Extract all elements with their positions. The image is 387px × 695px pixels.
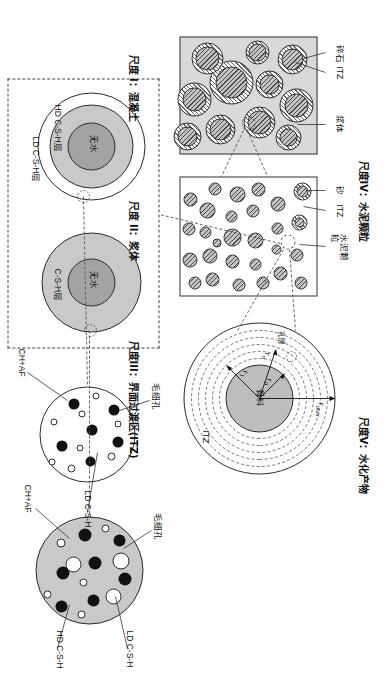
- scale5-capillary-pore: [101, 524, 109, 532]
- scale2-particle-core: [294, 217, 304, 227]
- scale5-capillary-pore: [77, 610, 85, 618]
- scale1-zoom-marker: [241, 116, 255, 130]
- scale5-ch-af-pore: [56, 440, 67, 451]
- scale5-ch-af-pore: [108, 404, 119, 415]
- scale5-label-ch-af: CH+AF: [15, 348, 25, 376]
- scale1-label-aggregate: 碎石: [333, 44, 343, 62]
- scale2-particle: [229, 186, 245, 202]
- scale5-capillary-pore: [92, 392, 99, 399]
- scale5-title: 尺度V：水化产物: [356, 416, 371, 494]
- scale4-label-anhydrous: 无水: [87, 134, 97, 152]
- scale2-particle: [205, 272, 219, 286]
- scale5-label-capillary-pore: 毛细孔: [149, 382, 159, 409]
- r0-subscript: 0: [262, 381, 269, 384]
- scale2-particle: [208, 182, 221, 195]
- scale5-label-ch-af: CH+AF: [21, 484, 31, 512]
- scale3-radius-r0: r0: [262, 378, 273, 385]
- scale5-capillary-pore: [76, 444, 83, 451]
- scale2-particle: [271, 244, 281, 254]
- scale2-particle: [246, 204, 259, 217]
- scale3-label-pore: 孔隙: [276, 330, 283, 344]
- scale2-label-itz: ITZ: [333, 204, 343, 217]
- scale2-particle: [290, 248, 303, 261]
- scale3-radius-rn: rn: [260, 352, 271, 359]
- scale2-particle: [212, 238, 221, 247]
- scale4-label-hd-csh-layer: HD C-S-H层: [51, 104, 61, 151]
- scale4-label-anhydrous: 无水: [87, 270, 97, 288]
- scale4-label-csh-layer: C-S-H层: [51, 268, 61, 301]
- scale2-particle: [199, 202, 215, 218]
- scale5-ch-af-pore: [112, 436, 123, 447]
- scale2-particle: [225, 254, 239, 268]
- scale3-radius-r1: r1: [238, 370, 249, 377]
- scale5-label-hd-csh: HD C-S-H: [53, 630, 63, 668]
- scale1-aggregate: [177, 126, 197, 146]
- scale1-aggregate: [209, 118, 231, 140]
- scale5-capillary-pore: [114, 420, 121, 427]
- scale5-capillary-pore: [78, 410, 85, 417]
- scale5-ch-af-pore: [85, 456, 95, 466]
- scale2-label-cement-particle: 水泥颗粒: [329, 233, 347, 267]
- scale2-label-sand: 砂: [333, 185, 343, 194]
- scale3-label-aggregate-core: 骨料: [253, 388, 263, 406]
- scale5-capillary-pore: [65, 556, 81, 572]
- scale2-particle: [182, 222, 195, 235]
- scale2-particle: [271, 222, 283, 234]
- scale4-title: 尺度IV：水泥颗粒: [356, 160, 371, 241]
- scale5-capillary-pore: [112, 552, 129, 569]
- scale5-capillary-pore: [43, 590, 51, 598]
- rmax-subscript: max: [314, 405, 321, 416]
- scale3-label-itz-outer: ITZ: [199, 430, 209, 443]
- scale1-aggregate: [195, 46, 219, 70]
- scale5-ch-af-pore: [87, 594, 99, 606]
- rn-subscript: n: [260, 355, 267, 358]
- scale2-particle: [249, 258, 261, 270]
- scale5-ch-af-pore: [86, 424, 97, 435]
- scale5-label-ld-csh: LD C-S-H: [123, 630, 133, 667]
- scale5-capillary-pore: [56, 538, 65, 547]
- scale2-particle: [183, 192, 197, 206]
- scale5-capillary-pore: [79, 578, 87, 586]
- scale5-label-ld-csh: LD C-S-H: [81, 490, 91, 527]
- scale2-particle: [202, 248, 217, 263]
- scale5-capillary-pore: [48, 458, 55, 465]
- r1-subscript: 1: [238, 373, 245, 376]
- scale3-radius-rmax: rmax: [314, 402, 325, 416]
- scale2-particle: [188, 276, 201, 289]
- scale2-particle: [294, 276, 307, 289]
- scale2-particle-core: [296, 185, 308, 197]
- scale2-particle: [225, 210, 237, 222]
- scale2-title: 尺度 II：浆体: [126, 200, 141, 261]
- scale5-ch-af-pore: [78, 528, 91, 541]
- scale5-ch-af-pore: [68, 398, 79, 409]
- scale2-zoom-marker: [280, 234, 295, 249]
- scale5-ch-af-pore: [88, 556, 101, 569]
- scale2-particle: [182, 252, 197, 267]
- scale1-label-itz: ITZ: [333, 66, 343, 79]
- scale3-title: 尺度III：界面过渡区(ITZ): [126, 340, 141, 458]
- scale1-aggregate: [182, 87, 206, 111]
- scale1-aggregate: [281, 48, 303, 70]
- scale1-aggregate: [215, 66, 247, 98]
- multiscale-figure: 碎石 ITZ 浆体 砂 ITZ 水泥颗粒 骨料 ITZ 孔隙 r0 r1 rn …: [0, 0, 387, 695]
- scale5-capillary-pore: [50, 418, 57, 425]
- scale1-title: 尺度 I：混凝土: [126, 54, 141, 121]
- scale5-label-capillary-pore: 毛细孔: [151, 512, 161, 539]
- scale2-particle: [232, 278, 245, 291]
- scale2-particle: [256, 276, 269, 289]
- scale1-aggregate: [279, 128, 297, 146]
- scale1-aggregate: [284, 93, 308, 117]
- scale2-particle: [270, 196, 285, 211]
- scale5-capillary-pore: [107, 452, 115, 460]
- scale5-capillary-pore: [67, 464, 75, 472]
- scale5-ld-csh-circle: [39, 386, 135, 482]
- scale2-particle: [273, 266, 287, 280]
- scale5-capillary-pore: [105, 588, 121, 604]
- scale5-ch-af-pore: [118, 572, 131, 585]
- scale1-label-paste: 浆体: [333, 114, 343, 132]
- scale4-label-ld-csh-layer: LD C-S-H层: [29, 136, 39, 182]
- scale5-ch-af-pore: [55, 600, 67, 612]
- scale2-particle: [223, 228, 241, 246]
- scale2-particle: [247, 232, 263, 248]
- scale1-aggregate: [259, 74, 279, 94]
